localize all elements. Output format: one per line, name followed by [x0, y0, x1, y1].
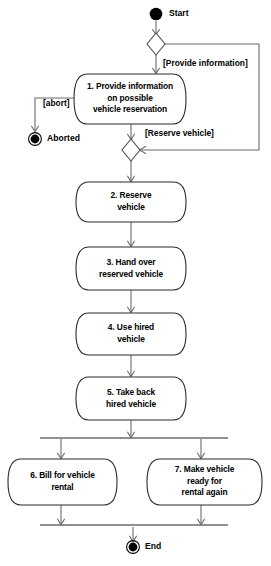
start-node[interactable]	[150, 8, 163, 21]
decision-node-2[interactable]	[122, 139, 140, 161]
activity-node-4[interactable]	[76, 313, 186, 355]
activity-node-7[interactable]	[147, 459, 262, 505]
edge-fork-to-activity7	[198, 439, 205, 459]
edge-activity4-to-activity5	[128, 355, 135, 377]
edge-decision2-to-activity2	[128, 161, 135, 182]
activity-node-2[interactable]	[76, 182, 186, 222]
end-node-label: End	[145, 541, 161, 552]
guard-label-provide-information: [Provide information]	[163, 58, 248, 69]
diagram-vector-layer	[0, 0, 271, 566]
edge-activity3-to-activity4	[128, 290, 135, 313]
activity-diagram-canvas: Start [Provide information] 1. Provide i…	[0, 0, 271, 566]
activity-node-3[interactable]	[76, 247, 186, 290]
edge-fork-to-activity6	[58, 439, 65, 459]
edge-activity1-to-decision2	[128, 124, 135, 140]
edge-activity5-to-fork	[128, 420, 135, 438]
activity-node-6[interactable]	[8, 459, 117, 505]
start-node-label: Start	[169, 8, 189, 19]
edge-decision1-to-activity1	[153, 55, 160, 73]
edge-join-to-end	[130, 527, 137, 542]
guard-label-abort: [abort]	[43, 98, 70, 109]
edge-activity2-to-activity3	[128, 222, 135, 247]
activity-node-1[interactable]	[74, 74, 186, 124]
edge-activity6-to-join	[58, 505, 65, 525]
edge-activity7-to-join	[198, 505, 205, 525]
aborted-node-label: Aborted	[47, 133, 80, 144]
decision-node-1[interactable]	[147, 33, 165, 55]
guard-label-reserve-vehicle: [Reserve vehicle]	[145, 128, 214, 139]
activity-node-5[interactable]	[76, 377, 186, 420]
aborted-node[interactable]	[29, 133, 42, 146]
